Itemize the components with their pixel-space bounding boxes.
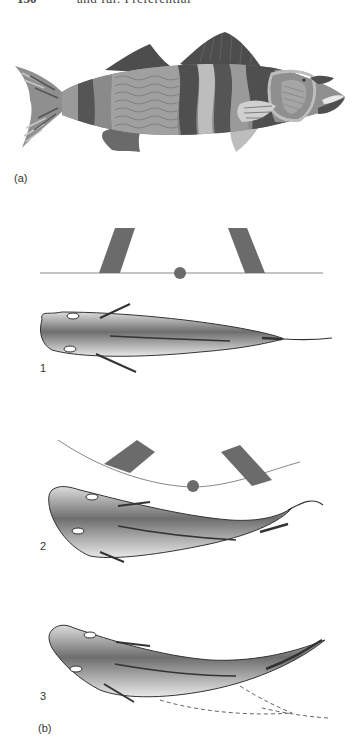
eye-bottom [64, 346, 76, 352]
stage-2-diagram [49, 440, 323, 562]
catfish-stage-2 [49, 487, 323, 562]
perch-eye [302, 78, 305, 81]
figure-canvas [0, 0, 355, 742]
stage-1-diagram [40, 228, 332, 372]
stage-3-label: 3 [40, 690, 46, 702]
panel-b-label: (b) [38, 722, 51, 734]
stage-1-label: 1 [40, 362, 46, 374]
left-paddle [99, 228, 135, 273]
eye-bottom [72, 528, 84, 534]
left-paddle [104, 440, 155, 473]
catfish-stage-3 [49, 625, 325, 702]
stage-3-diagram [49, 625, 328, 718]
right-paddle [228, 228, 265, 273]
eye-top [84, 632, 96, 638]
stage-2-label: 2 [40, 540, 46, 552]
panel-a-label: (a) [14, 172, 27, 184]
eye-bottom [70, 666, 82, 672]
pivot-point [174, 267, 186, 279]
catfish-stage-1 [40, 304, 332, 372]
pivot-point [187, 480, 199, 492]
caudal-fin [15, 66, 62, 148]
right-paddle [221, 445, 272, 486]
eye-top [67, 313, 79, 319]
eye-top [86, 494, 98, 500]
perch-illustration [15, 32, 355, 152]
